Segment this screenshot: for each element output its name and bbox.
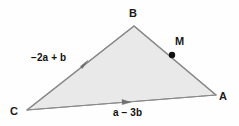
point-m-marker — [169, 52, 175, 58]
vertex-label-b: B — [129, 8, 137, 19]
vector-triangle-figure: B A C M −2a + b a − 3b — [0, 0, 239, 126]
point-label-m: M — [175, 36, 184, 47]
vertex-label-a: A — [219, 91, 227, 102]
vector-label-cb: −2a + b — [31, 53, 66, 63]
vertex-label-c: C — [10, 106, 18, 117]
vector-label-ca: a − 3b — [113, 108, 142, 118]
